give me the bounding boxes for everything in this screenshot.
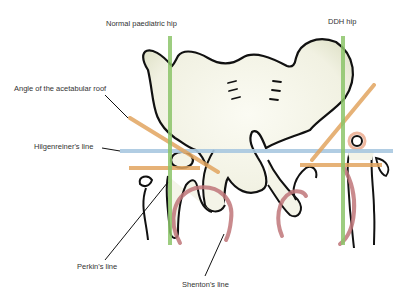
leader-shenton [205,234,224,276]
label-hilgenreiner: Hilgenreiner's line [34,142,93,151]
label-shenton: Shenton's line [182,280,229,289]
pelvis-outline [143,39,353,206]
heading-normal-hip: Normal paediatric hip [106,19,177,28]
hip-diagram [0,0,405,306]
label-perkin: Perkin's line [77,262,117,271]
heading-ddh-hip: DDH hip [328,17,356,26]
label-acetabular-angle: Angle of the acetabular roof [14,84,106,93]
leader-hilgenreiner [102,148,120,151]
leader-acetabular-angle [105,95,128,118]
ischium-right [268,160,301,216]
leader-perkin [105,182,168,260]
normal-lesser-trochanter [140,177,152,240]
ddh-ossific-nucleus [352,136,362,146]
